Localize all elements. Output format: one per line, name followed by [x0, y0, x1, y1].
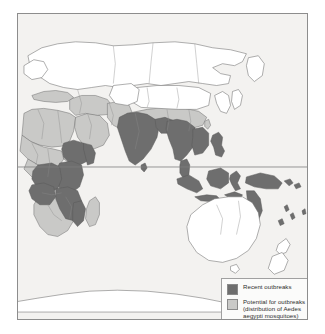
- potential-outbreaks-label: Potential for outbreaks (distribution of…: [243, 298, 305, 320]
- recent-outbreaks-swatch: [227, 284, 238, 295]
- recent-outbreaks-label: Recent outbreaks: [243, 283, 292, 290]
- map-figure: Recent outbreaks Potential for outbreaks…: [0, 0, 325, 334]
- map-legend: Recent outbreaks Potential for outbreaks…: [221, 278, 308, 320]
- map-frame: Recent outbreaks Potential for outbreaks…: [17, 13, 308, 320]
- potential-outbreaks-swatch: [227, 299, 238, 310]
- legend-item-potential-outbreaks: Potential for outbreaks (distribution of…: [227, 298, 308, 320]
- legend-item-recent-outbreaks: Recent outbreaks: [227, 283, 308, 295]
- world-map-graphic: [18, 14, 307, 319]
